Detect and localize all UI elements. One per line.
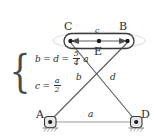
eq-bd-mid: d bbox=[53, 54, 59, 64]
eq-c-lhs: c bbox=[35, 81, 40, 91]
figure-canvas: C B E A D c b d a { b = d = 5 4 a c = bbox=[0, 0, 154, 140]
eq-bd-denominator: 4 bbox=[73, 58, 80, 67]
support-A bbox=[43, 117, 59, 132]
eq-bd-suffix: a bbox=[83, 54, 88, 64]
eq-bd-equals-2: = bbox=[62, 54, 70, 64]
eq-bd-fraction: 5 4 bbox=[73, 50, 80, 68]
support-D-hatching bbox=[130, 128, 143, 132]
equation-b-d: b = d = 5 4 a bbox=[35, 50, 89, 68]
equation-brace: { bbox=[10, 52, 31, 92]
member-label-d: d bbox=[110, 73, 116, 82]
node-label-C: C bbox=[64, 21, 72, 32]
equation-c: c = a 2 bbox=[35, 77, 89, 95]
joint-dot-B bbox=[125, 39, 129, 43]
equation-block: { b = d = 5 4 a c = a 2 bbox=[6, 50, 89, 95]
equation-rows: b = d = 5 4 a c = a 2 bbox=[35, 50, 89, 95]
eq-c-denominator: 2 bbox=[54, 85, 61, 94]
eq-bd-numerator: 5 bbox=[73, 50, 80, 58]
eq-c-equals-1: = bbox=[43, 81, 51, 91]
node-label-D: D bbox=[141, 109, 150, 120]
node-label-B: B bbox=[119, 21, 127, 32]
member-label-c: c bbox=[95, 27, 99, 35]
eq-bd-equals-1: = bbox=[43, 54, 51, 64]
eq-bd-lhs: b bbox=[35, 54, 41, 64]
joint-dot-E bbox=[97, 39, 101, 43]
node-label-E: E bbox=[94, 46, 102, 57]
joint-dot-C bbox=[68, 39, 72, 43]
node-label-A: A bbox=[36, 109, 44, 120]
eq-c-numerator: a bbox=[54, 77, 61, 85]
member-label-a: a bbox=[88, 110, 93, 119]
support-A-hatching bbox=[44, 128, 57, 132]
eq-c-fraction: a 2 bbox=[54, 77, 61, 95]
